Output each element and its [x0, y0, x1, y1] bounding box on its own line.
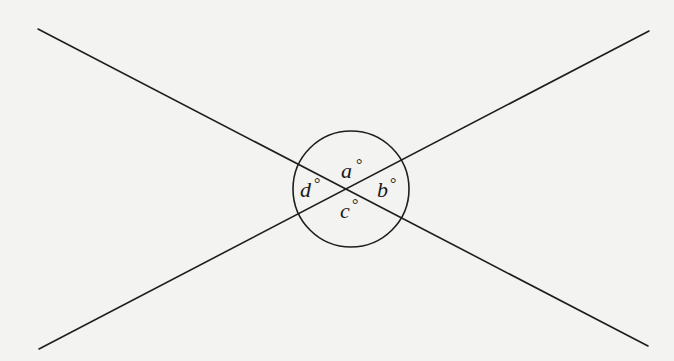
angle-b-degree-symbol: °	[390, 175, 396, 192]
angle-d-label: d °	[300, 175, 320, 202]
angle-a-letter: a	[341, 158, 352, 183]
angle-d-letter: d	[300, 177, 312, 202]
angle-c-label: c °	[340, 196, 358, 223]
line-1	[38, 29, 648, 346]
angle-b-letter: b	[377, 177, 388, 202]
angle-c-letter: c	[340, 198, 350, 223]
intersecting-lines-diagram: a ° b ° c ° d °	[0, 0, 674, 361]
angle-a-degree-symbol: °	[356, 156, 362, 173]
angle-d-degree-symbol: °	[314, 175, 320, 192]
line-2	[39, 31, 649, 349]
angle-b-label: b °	[377, 175, 396, 202]
angle-a-label: a °	[341, 156, 362, 183]
angle-c-degree-symbol: °	[352, 196, 358, 213]
